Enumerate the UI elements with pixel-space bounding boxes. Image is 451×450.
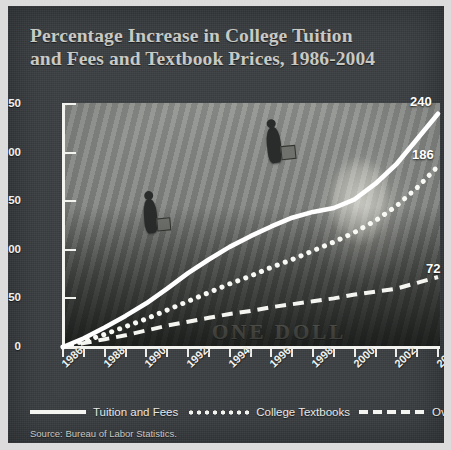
legend: Tuition and FeesCollege TextbooksOverall… <box>30 404 438 420</box>
y-tick-label-150: 150 <box>8 194 21 206</box>
series-line-overall-prices <box>63 277 438 347</box>
y-tick-label-0: 0 <box>15 340 21 352</box>
legend-label: Overall Prices <box>432 406 444 418</box>
page-title: Percentage Increase in College Tuition a… <box>30 24 430 70</box>
end-label-overall: 72 <box>426 261 440 276</box>
title-line-2: and Fees and Textbook Prices, 1986-2004 <box>30 47 430 70</box>
legend-item-dashed: Overall Prices <box>359 406 444 418</box>
end-label-tuition: 240 <box>410 94 432 109</box>
y-tick-label-50: 50 <box>8 291 21 303</box>
y-tick-label-250: 250 <box>8 97 21 109</box>
title-line-1: Percentage Increase in College Tuition <box>30 24 430 47</box>
plot-figure: ONE DOLL 050100150200250 198619881990199… <box>26 95 440 367</box>
legend-label: Tuition and Fees <box>93 406 178 418</box>
legend-item-solid: Tuition and Fees <box>30 406 178 418</box>
legend-swatch-dashed-icon <box>359 410 425 414</box>
source-note: Source: Bureau of Labor Statistics. <box>30 428 177 439</box>
series-layer <box>26 95 440 367</box>
legend-swatch-dotted-icon <box>187 410 249 415</box>
chart-panel: Percentage Increase in College Tuition a… <box>8 6 444 443</box>
end-label-textbooks: 186 <box>412 147 434 162</box>
figure-page: Percentage Increase in College Tuition a… <box>0 0 451 450</box>
y-tick-label-100: 100 <box>8 243 21 255</box>
y-tick-label-200: 200 <box>8 146 21 158</box>
legend-swatch-solid-icon <box>30 410 86 414</box>
legend-item-dotted: College Textbooks <box>187 406 350 418</box>
legend-label: College Textbooks <box>256 406 350 418</box>
